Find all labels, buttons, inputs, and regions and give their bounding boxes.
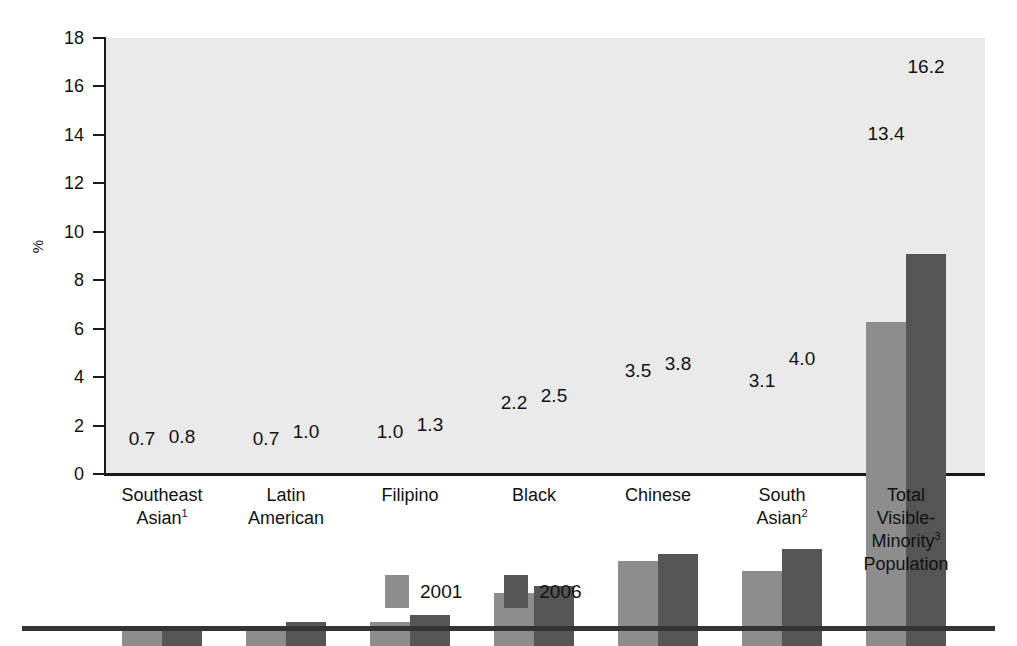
category-label-total-line-4: Population xyxy=(846,553,966,576)
y-axis-line xyxy=(104,37,106,475)
y-tick-label-14: 14 xyxy=(50,126,84,144)
category-label-southeast-asian-line-2-text: Asian xyxy=(136,508,181,528)
bar-value-south-asian-2001: 3.1 xyxy=(732,371,792,390)
y-tick-label-8-wrap: 8 xyxy=(22,271,84,289)
bottom-divider-rule xyxy=(22,626,995,631)
category-label-south-asian: South Asian2 xyxy=(722,484,842,530)
category-label-total-line-2: Visible- xyxy=(846,507,966,530)
bar-value-southeast-asian-2006: 0.8 xyxy=(152,427,212,446)
bar-value-latin-american-2006: 1.0 xyxy=(276,422,336,441)
y-tick-label-4-wrap: 4 xyxy=(22,368,84,386)
bar-total-visible-minority-2006 xyxy=(906,254,946,646)
y-tick-label-8: 8 xyxy=(50,271,84,289)
bar-latin-american-2001 xyxy=(246,629,286,646)
legend-swatch-2006 xyxy=(504,575,528,608)
y-tick-label-6-wrap: 6 xyxy=(22,320,84,338)
category-label-total-line-3: Minority3 xyxy=(846,530,966,553)
category-label-chinese: Chinese xyxy=(598,484,718,507)
bar-value-south-asian-2006: 4.0 xyxy=(772,349,832,368)
y-tick-mark-14 xyxy=(93,134,105,136)
y-tick-label-18-wrap: 18 xyxy=(22,29,84,47)
category-label-black: Black xyxy=(474,484,594,507)
category-label-southeast-asian: Southeast Asian1 xyxy=(102,484,222,530)
bar-value-filipino-2006: 1.3 xyxy=(400,415,460,434)
y-tick-label-18: 18 xyxy=(50,29,84,47)
legend-item-2001: 2001 xyxy=(385,575,462,608)
category-label-south-asian-line-1: South xyxy=(722,484,842,507)
y-tick-label-0: 0 xyxy=(50,465,84,483)
bar-value-chinese-2006: 3.8 xyxy=(648,354,708,373)
category-label-latin-american-line-1: Latin xyxy=(226,484,346,507)
y-tick-label-16: 16 xyxy=(50,77,84,95)
legend-swatch-2001 xyxy=(385,575,409,608)
legend-item-2006: 2006 xyxy=(504,575,581,608)
bar-value-total-visible-minority-2006: 16.2 xyxy=(891,57,961,76)
category-label-southeast-asian-line-2: Asian1 xyxy=(102,507,222,530)
y-tick-mark-16 xyxy=(93,85,105,87)
category-label-total-visible-minority: Total Visible- Minority3 Population xyxy=(846,484,966,576)
category-label-total-line-3-text: Minority xyxy=(871,531,934,551)
category-label-filipino-line-1: Filipino xyxy=(350,484,470,507)
y-tick-label-4: 4 xyxy=(50,368,84,386)
y-tick-mark-6 xyxy=(93,328,105,330)
y-tick-label-16-wrap: 16 xyxy=(22,77,84,95)
y-tick-mark-10 xyxy=(93,231,105,233)
legend-label-2006: 2006 xyxy=(539,582,581,601)
category-label-south-asian-line-2: Asian2 xyxy=(722,507,842,530)
bar-chinese-2001 xyxy=(618,561,658,646)
y-tick-mark-18 xyxy=(93,37,105,39)
bar-value-total-visible-minority-2001: 13.4 xyxy=(851,124,921,143)
category-label-total-line-1: Total xyxy=(846,484,966,507)
y-tick-label-6: 6 xyxy=(50,320,84,338)
x-axis-line xyxy=(104,473,985,476)
y-tick-mark-2 xyxy=(93,425,105,427)
category-label-south-asian-footnote: 2 xyxy=(801,507,807,519)
y-tick-mark-8 xyxy=(93,279,105,281)
y-tick-label-0-wrap: 0 xyxy=(22,465,84,483)
category-label-black-line-1: Black xyxy=(474,484,594,507)
chart-legend: 2001 2006 xyxy=(385,575,582,608)
category-label-southeast-asian-footnote: 1 xyxy=(181,507,187,519)
bar-value-black-2006: 2.5 xyxy=(524,386,584,405)
category-label-latin-american-line-2: American xyxy=(226,507,346,530)
bar-chinese-2006 xyxy=(658,554,698,646)
y-tick-mark-12 xyxy=(93,182,105,184)
bar-southeast-asian-2001 xyxy=(122,629,162,646)
plot-area xyxy=(106,38,985,474)
y-tick-label-14-wrap: 14 xyxy=(22,126,84,144)
category-label-filipino: Filipino xyxy=(350,484,470,507)
category-label-chinese-line-1: Chinese xyxy=(598,484,718,507)
y-tick-label-2-wrap: 2 xyxy=(22,417,84,435)
bar-chart-figure: % 18 16 14 12 10 8 6 4 2 0 0.7 0.8 xyxy=(0,0,1017,646)
y-tick-label-12: 12 xyxy=(50,174,84,192)
bar-south-asian-2006 xyxy=(782,549,822,646)
category-label-total-footnote: 3 xyxy=(934,530,940,542)
y-tick-label-2: 2 xyxy=(50,417,84,435)
y-tick-label-10: 10 xyxy=(50,223,84,241)
y-tick-label-10-wrap: 10 xyxy=(22,223,84,241)
category-label-south-asian-line-2-text: Asian xyxy=(756,508,801,528)
y-tick-mark-4 xyxy=(93,376,105,378)
y-tick-mark-0 xyxy=(93,473,105,475)
category-label-latin-american: Latin American xyxy=(226,484,346,530)
bar-south-asian-2001 xyxy=(742,571,782,646)
legend-label-2001: 2001 xyxy=(420,582,462,601)
category-label-southeast-asian-line-1: Southeast xyxy=(102,484,222,507)
y-tick-label-12-wrap: 12 xyxy=(22,174,84,192)
